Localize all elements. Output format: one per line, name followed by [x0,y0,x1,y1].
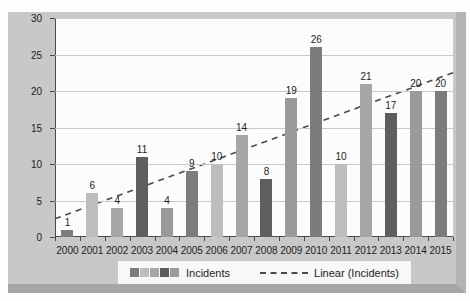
bar-data-label: 14 [236,122,247,133]
bar-slot: 26 [304,18,329,237]
bar-data-label: 19 [286,85,297,96]
bar [61,230,73,237]
bar-data-label: 4 [114,195,120,206]
bar-data-label: 26 [311,34,322,45]
bar-slot: 20 [428,18,453,237]
bar [260,179,272,237]
bar-slot: 8 [254,18,279,237]
y-axis-labels: 051015202530 [8,18,48,237]
x-axis-tick [80,237,81,241]
bar [161,208,173,237]
x-axis-tick-label: 2004 [155,245,180,256]
legend-incidents-label: Incidents [186,267,230,279]
y-axis-tick-label: 20 [31,86,42,97]
x-axis-tick [403,237,404,241]
bar-data-label: 20 [435,78,446,89]
plot-area: 16411491014819261021172020 [55,18,453,237]
x-axis-tick-label: 2010 [304,245,329,256]
legend-linear-label: Linear (Incidents) [314,267,399,279]
bar [211,164,223,237]
legend-swatch [130,268,139,277]
legend-swatch [140,268,149,277]
y-axis-tick-label: 15 [31,122,42,133]
bar [186,171,198,237]
x-axis-tick [55,237,56,241]
x-axis-tick-label: 2009 [279,245,304,256]
legend-swatch [150,268,159,277]
bar-slot: 4 [105,18,130,237]
x-axis-tick-label: 2015 [428,245,453,256]
x-axis-tick [105,237,106,241]
bar-slot: 14 [229,18,254,237]
bar [385,113,397,237]
bar-slot: 4 [155,18,180,237]
legend-dashed-line-sample [260,272,308,274]
x-axis-tick-label: 2001 [80,245,105,256]
x-axis-tick-label: 2012 [354,245,379,256]
bar-slot: 19 [279,18,304,237]
x-axis-tick [155,237,156,241]
bar [360,84,372,237]
legend-swatches [130,268,180,277]
y-axis-tick-label: 5 [36,195,42,206]
bar-slot: 10 [329,18,354,237]
bar-slot: 21 [354,18,379,237]
bar [236,135,248,237]
legend-swatch [160,268,169,277]
bar-slot: 9 [179,18,204,237]
bar [310,47,322,237]
x-axis-tick-label: 2006 [204,245,229,256]
x-axis-tick [304,237,305,241]
legend: Incidents Linear (Incidents) [118,261,411,284]
x-axis-tick [179,237,180,241]
bar [111,208,123,237]
chart-figure: 16411491014819261021172020 051015202530 … [8,12,466,293]
bar-slot: 17 [378,18,403,237]
y-axis-tick-label: 10 [31,159,42,170]
x-axis-tick-label: 2007 [229,245,254,256]
x-axis-tick [378,237,379,241]
x-axis-tick-label: 2003 [130,245,155,256]
bar [410,91,422,237]
bar [136,157,148,237]
x-axis-tick [130,237,131,241]
x-axis-tick-label: 2008 [254,245,279,256]
bar [86,193,98,237]
bar-slot: 10 [204,18,229,237]
bar [435,91,447,237]
bar-slot: 1 [55,18,80,237]
bar-slot: 20 [403,18,428,237]
bar [285,98,297,237]
bar-data-label: 9 [189,158,195,169]
bar-data-label: 8 [264,166,270,177]
x-axis-tick [354,237,355,241]
x-axis-labels: 2000200120022003200420052006200720082009… [55,245,453,256]
x-axis-tick [229,237,230,241]
x-axis-tick-label: 2000 [55,245,80,256]
bar-data-label: 10 [336,151,347,162]
bar-data-label: 11 [137,144,147,155]
y-axis-tick-label: 25 [31,49,42,60]
x-axis-tick [254,237,255,241]
bar-slot: 11 [130,18,155,237]
bar-data-label: 17 [385,100,396,111]
x-axis-tick-label: 2005 [179,245,204,256]
x-axis-tick-label: 2002 [105,245,130,256]
bar-data-label: 10 [211,151,222,162]
x-axis-tick [204,237,205,241]
bar-data-label: 20 [410,78,421,89]
x-axis-tick [329,237,330,241]
bar-slot: 6 [80,18,105,237]
x-axis-tick [279,237,280,241]
bar-data-label: 6 [90,180,96,191]
bar-data-label: 1 [65,217,71,228]
y-axis-tick-label: 0 [36,232,42,243]
x-axis-tick [453,237,454,241]
bar-data-label: 4 [164,195,170,206]
bar [335,164,347,237]
x-axis-tick-label: 2014 [403,245,428,256]
x-axis-tick-label: 2011 [329,245,354,256]
y-axis-tick-label: 30 [31,13,42,24]
bar-data-label: 21 [360,71,371,82]
x-axis-tick-label: 2013 [378,245,403,256]
